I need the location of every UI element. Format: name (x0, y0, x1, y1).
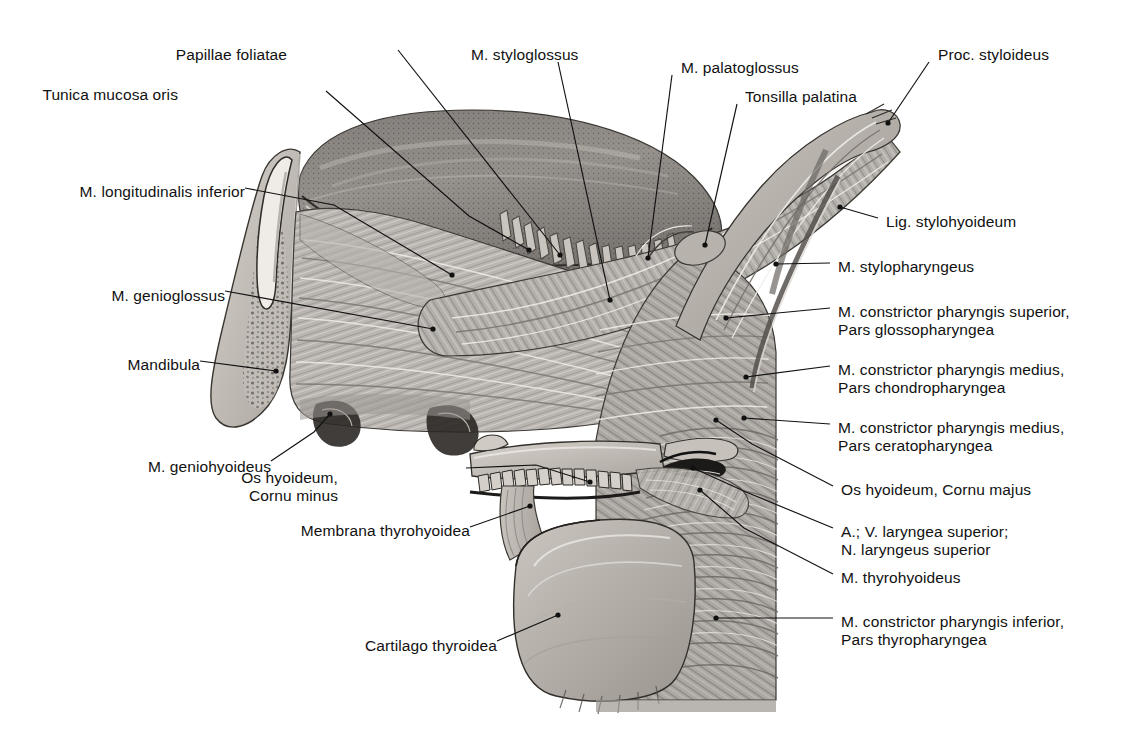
label-m-constrictor-pharyngis-superior: M. constrictor pharyngis superior, Pars … (838, 303, 1070, 339)
label-proc-styloideus: Proc. styloideus (938, 46, 1049, 64)
inferior-pharynx (596, 700, 776, 712)
anatomical-plate: Papillae foliatae Tunica mucosa oris M. … (0, 0, 1129, 729)
label-os-hyoideum-cornu-majus: Os hyoideum, Cornu majus (841, 481, 1031, 499)
label-m-constrictor-pharyngis-inferior: M. constrictor pharyngis inferior, Pars … (841, 613, 1064, 649)
label-m-genioglossus: M. genioglossus (111, 287, 225, 305)
label-tunica-mucosa-oris: Tunica mucosa oris (42, 86, 178, 104)
label-m-stylopharyngeus: M. stylopharyngeus (838, 258, 974, 276)
label-membrana-thyrohyoidea: Membrana thyrohyoidea (301, 522, 470, 540)
label-os-hyoideum-cornu-minus: Os hyoideum, Cornu minus (241, 469, 338, 505)
cartilago-thyroidea (514, 519, 696, 714)
label-cartilago-thyroidea: Cartilago thyroidea (365, 637, 497, 655)
label-m-constrictor-pharyngis-medius-chondro: M. constrictor pharyngis medius, Pars ch… (838, 361, 1064, 397)
label-m-thyrohyoideus: M. thyrohyoideus (841, 569, 961, 587)
label-tonsilla-palatina: Tonsilla palatina (745, 88, 857, 106)
label-mandibula: Mandibula (128, 356, 200, 374)
label-m-constrictor-pharyngis-medius-cerato: M. constrictor pharyngis medius, Pars ce… (838, 419, 1064, 455)
label-m-palatoglossus: M. palatoglossus (681, 59, 799, 77)
label-papillae-foliatae: Papillae foliatae (176, 46, 287, 64)
label-a-v-laryngea-superior: A.; V. laryngea superior; N. laryngeus s… (841, 523, 1008, 559)
label-lig-stylohyoideum: Lig. stylohyoideum (886, 213, 1016, 231)
label-m-longitudinalis-inferior: M. longitudinalis inferior (80, 183, 245, 201)
label-m-styloglossus: M. styloglossus (471, 46, 578, 64)
